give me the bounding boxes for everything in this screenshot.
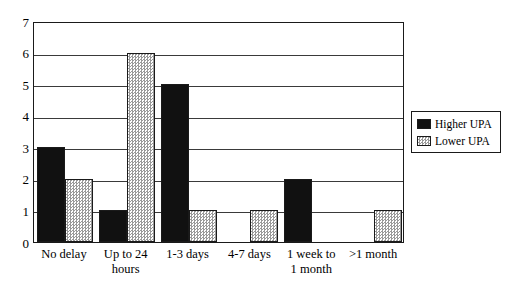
x-tick-label-line: No delay xyxy=(33,247,95,262)
x-tick-label: Up to 24hours xyxy=(95,247,157,277)
y-tick-label: 3 xyxy=(7,142,29,155)
bar-lower-upa xyxy=(250,210,278,242)
y-tick-label: 4 xyxy=(7,110,29,123)
bars-layer xyxy=(34,23,403,242)
x-tick-label: 1-3 days xyxy=(157,247,219,262)
x-tick-label-line: 1 month xyxy=(280,262,342,277)
bar-chart: 01234567 No delayUp to 24hours1-3 days4-… xyxy=(0,0,522,287)
legend-swatch-lower-upa-icon xyxy=(417,136,431,146)
bar-lower-upa xyxy=(374,210,402,242)
y-tick-label: 7 xyxy=(7,16,29,29)
bar-lower-upa xyxy=(127,53,155,242)
x-tick-label: >1 month xyxy=(342,247,404,262)
legend-item-higher-upa: Higher UPA xyxy=(417,116,495,132)
y-tick-label: 5 xyxy=(7,79,29,92)
bar-higher-upa xyxy=(99,210,127,242)
x-tick-label-line: Up to 24 xyxy=(95,247,157,262)
x-tick-label: No delay xyxy=(33,247,95,262)
x-tick-label: 4-7 days xyxy=(219,247,281,262)
y-tick-label: 1 xyxy=(7,205,29,218)
bar-higher-upa xyxy=(37,147,65,242)
x-tick-label-line: 4-7 days xyxy=(219,247,281,262)
legend-label-higher-upa: Higher UPA xyxy=(435,118,492,130)
y-tick-label: 0 xyxy=(7,237,29,250)
legend-swatch-higher-upa-icon xyxy=(417,119,431,129)
x-tick-label-line: 1 week to xyxy=(280,247,342,262)
x-tick-label: 1 week to1 month xyxy=(280,247,342,277)
legend: Higher UPA Lower UPA xyxy=(411,111,501,153)
x-tick-label-line: 1-3 days xyxy=(157,247,219,262)
y-axis: 01234567 xyxy=(5,0,29,287)
bar-lower-upa xyxy=(189,210,217,242)
y-tick-label: 6 xyxy=(7,47,29,60)
x-tick-label-line: >1 month xyxy=(342,247,404,262)
y-tick-label: 2 xyxy=(7,173,29,186)
x-tick-label-line: hours xyxy=(95,262,157,277)
x-axis: No delayUp to 24hours1-3 days4-7 days1 w… xyxy=(33,247,404,287)
bar-higher-upa xyxy=(161,84,189,242)
plot-area xyxy=(33,22,404,243)
legend-label-lower-upa: Lower UPA xyxy=(435,135,490,147)
legend-item-lower-upa: Lower UPA xyxy=(417,133,495,149)
bar-lower-upa xyxy=(65,179,93,242)
bar-higher-upa xyxy=(284,179,312,242)
